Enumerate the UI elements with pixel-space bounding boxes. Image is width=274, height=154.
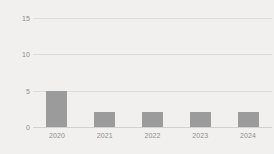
plot-area [33, 18, 272, 127]
y-axis-tick-labels: 051015 [0, 18, 30, 127]
bar[interactable] [238, 112, 259, 127]
x-axis-tick-label: 2023 [176, 131, 224, 140]
y-axis-tick-label: 5 [4, 87, 30, 94]
bar[interactable] [190, 112, 211, 127]
bar-slot [176, 18, 224, 127]
y-axis-tick-label: 15 [4, 15, 30, 22]
bar-slot [33, 18, 81, 127]
bar-chart: 051015 20202021202220232024 [0, 0, 274, 154]
y-axis-tick-label: 10 [4, 51, 30, 58]
bar-slot [224, 18, 272, 127]
x-axis-tick-labels: 20202021202220232024 [33, 131, 272, 145]
bar-slot [129, 18, 177, 127]
x-axis-tick-label: 2020 [33, 131, 81, 140]
x-axis-tick-label: 2022 [129, 131, 177, 140]
y-axis-tick-label: 0 [4, 124, 30, 131]
bar[interactable] [46, 91, 67, 127]
bar-slot [81, 18, 129, 127]
x-axis-tick-label: 2024 [224, 131, 272, 140]
bar[interactable] [142, 112, 163, 127]
bar[interactable] [94, 112, 115, 127]
x-axis-line [33, 127, 272, 128]
x-axis-tick-label: 2021 [81, 131, 129, 140]
